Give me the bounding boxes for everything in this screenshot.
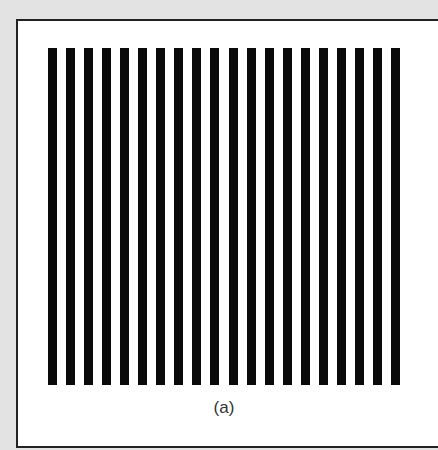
grating-bar <box>66 48 75 385</box>
grating-bar <box>229 48 238 385</box>
figure-panel: (a) <box>16 19 438 448</box>
grating-bar <box>283 48 292 385</box>
grating-bar <box>319 48 328 385</box>
vertical-grating <box>48 48 400 385</box>
grating-bar <box>355 48 364 385</box>
grating-bar <box>301 48 310 385</box>
grating-bar <box>265 48 274 385</box>
grating-bar <box>174 48 183 385</box>
grating-bar <box>84 48 93 385</box>
grating-bar <box>138 48 147 385</box>
grating-bar <box>48 48 57 385</box>
grating-bar <box>156 48 165 385</box>
grating-bar <box>247 48 256 385</box>
grating-bar <box>102 48 111 385</box>
figure-caption: (a) <box>18 398 430 418</box>
grating-bar <box>391 48 400 385</box>
grating-bar <box>337 48 346 385</box>
grating-bar <box>120 48 129 385</box>
grating-bar <box>192 48 201 385</box>
grating-bar <box>373 48 382 385</box>
grating-bar <box>210 48 219 385</box>
